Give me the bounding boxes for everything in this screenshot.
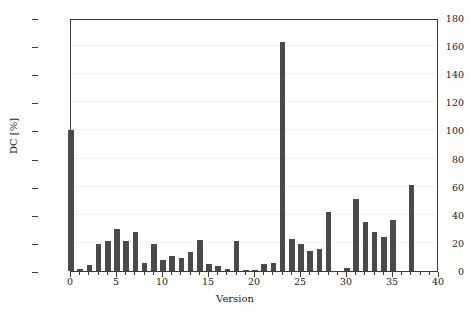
x-tick-mark-minor [291,272,292,275]
x-tick-label: 15 [202,277,214,287]
x-tick-mark-minor [153,272,154,275]
bar [280,42,286,271]
x-tick-mark-minor [180,272,181,275]
bar [68,130,74,271]
bar [381,237,387,271]
bar [206,264,212,271]
bar [215,266,221,271]
x-tick-mark-minor [245,272,246,275]
x-tick-mark-minor [318,272,319,275]
y-tick-mark [32,188,38,189]
bar [169,256,175,271]
y-tick-mark [32,272,38,273]
y-tick-label: 80 [452,155,464,165]
bar [289,239,295,271]
x-tick-label: 20 [248,277,260,287]
bar-chart-figure: DC [%] 020406080100120140160180 05101520… [0,0,470,320]
bar [298,244,304,271]
y-tick-mark [32,244,38,245]
bar [225,269,231,271]
x-tick-label: 40 [432,277,444,287]
x-tick-mark-minor [79,272,80,275]
bar [252,270,258,271]
x-tick-mark-minor [226,272,227,275]
x-tick-mark-minor [410,272,411,275]
x-tick-mark-minor [171,272,172,275]
x-tick-mark-minor [328,272,329,275]
x-tick-mark-minor [355,272,356,275]
x-tick-mark-minor [217,272,218,275]
y-tick-mark [32,160,38,161]
bar [271,263,277,271]
bar [326,212,332,271]
y-axis-title: DC [%] [8,118,19,154]
y-tick-label: 60 [452,183,464,193]
x-axis-title: Version [0,293,470,304]
y-tick-label: 40 [452,211,464,221]
bar [105,241,111,271]
x-tick-mark-minor [107,272,108,275]
y-tick-label: 0 [458,267,464,277]
x-tick-label: 5 [113,277,119,287]
x-tick-mark-minor [125,272,126,275]
bar [261,264,267,271]
bar [243,270,249,271]
y-tick-label: 100 [446,127,464,137]
y-tick-mark [32,47,38,48]
x-tick-mark-minor [263,272,264,275]
x-tick-mark-minor [272,272,273,275]
y-tick-mark [32,75,38,76]
bar [390,220,396,271]
y-tick-label: 160 [446,42,464,52]
bar [307,251,313,271]
plot-area [70,19,438,272]
x-tick-mark-minor [383,272,384,275]
y-tick-label: 140 [446,70,464,80]
x-tick-label: 25 [294,277,306,287]
x-tick-label: 30 [340,277,352,287]
bar [372,232,378,271]
bar [179,258,185,271]
bar [344,268,350,271]
bar [353,199,359,271]
x-tick-mark-minor [364,272,365,275]
x-tick-mark-minor [134,272,135,275]
bar [114,229,120,271]
x-tick-mark-minor [420,272,421,275]
y-tick-mark [32,103,38,104]
x-tick-mark-minor [429,272,430,275]
y-tick-label: 120 [446,99,464,109]
x-tick-mark-minor [309,272,310,275]
bar [87,265,93,271]
bar [96,244,102,271]
y-tick-mark [32,19,38,20]
x-tick-mark-minor [88,272,89,275]
x-tick-mark-minor [236,272,237,275]
x-tick-label: 0 [67,277,73,287]
bar [188,252,194,271]
bar [317,249,323,271]
bar [234,241,240,271]
x-tick-mark-minor [190,272,191,275]
y-tick-label: 180 [446,14,464,24]
x-tick-mark-minor [282,272,283,275]
x-tick-mark-minor [401,272,402,275]
bar [133,232,139,271]
x-tick-mark-minor [374,272,375,275]
bar [123,241,129,271]
bar [77,269,83,271]
x-tick-mark-minor [144,272,145,275]
bar [142,263,148,271]
x-tick-mark-minor [199,272,200,275]
bar [197,240,203,271]
bar [363,222,369,271]
y-tick-label: 20 [452,239,464,249]
x-tick-mark-minor [337,272,338,275]
x-tick-mark-minor [98,272,99,275]
bars-group [71,20,437,271]
y-tick-mark [32,131,38,132]
bar [409,185,415,271]
y-tick-mark [32,216,38,217]
x-tick-label: 35 [386,277,398,287]
x-tick-label: 10 [156,277,168,287]
